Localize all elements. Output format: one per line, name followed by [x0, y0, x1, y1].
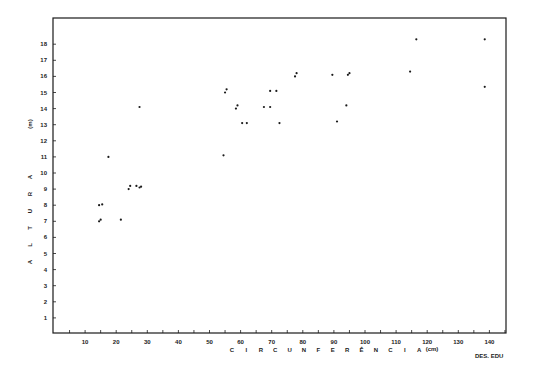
x-tick-label: 50 — [206, 339, 213, 345]
y-tick-label: 2 — [44, 299, 48, 305]
y-tick-label: 10 — [40, 170, 47, 176]
data-point — [129, 185, 131, 187]
data-point — [120, 219, 122, 221]
data-point — [236, 104, 238, 106]
data-point — [241, 122, 243, 124]
data-point — [101, 203, 103, 205]
plot-border — [53, 18, 506, 333]
y-tick-label: 17 — [40, 57, 47, 63]
data-point — [100, 219, 102, 221]
drawing-credit: DES. EDU — [475, 353, 503, 359]
data-point — [135, 185, 137, 187]
scatter-chart: 123456789101112131415161718 102030405060… — [0, 0, 533, 374]
x-tick-label: 60 — [237, 339, 244, 345]
data-point — [415, 38, 417, 40]
x-tick-label: 30 — [144, 339, 151, 345]
y-title-letter: T — [27, 226, 33, 230]
x-tick-label: 40 — [175, 339, 182, 345]
data-point — [224, 91, 226, 93]
x-title-letter: N — [374, 347, 378, 353]
y-title-letter: R — [27, 191, 33, 196]
x-title-unit: (cm) — [426, 346, 439, 352]
data-point — [128, 188, 130, 190]
data-point — [269, 106, 271, 108]
data-point — [235, 108, 237, 110]
y-title-letter: A — [27, 259, 33, 264]
x-tick-label: 140 — [484, 339, 495, 345]
data-point — [295, 72, 297, 74]
x-title-letter: I — [404, 347, 406, 353]
x-tick-label: 120 — [422, 339, 433, 345]
x-title-letter: N — [302, 347, 306, 353]
y-title-letter: L — [27, 243, 33, 247]
y-tick-label: 5 — [44, 251, 48, 257]
y-title-unit: (m) — [27, 119, 33, 128]
data-points — [98, 38, 486, 222]
x-title-letter: F — [317, 347, 321, 353]
y-tick-label: 7 — [44, 218, 48, 224]
x-title-letter: C — [273, 347, 278, 353]
x-tick-label: 80 — [299, 339, 306, 345]
data-point — [246, 122, 248, 124]
x-title-letter: Ê — [360, 346, 364, 353]
y-tick-label: 15 — [40, 90, 47, 96]
x-title-letter: R — [345, 347, 350, 353]
y-axis-title: ALTURA(m) — [27, 119, 33, 264]
y-tick-label: 9 — [44, 186, 48, 192]
y-tick-label: 12 — [40, 138, 47, 144]
plot-frame — [53, 18, 506, 333]
y-tick-label: 16 — [40, 73, 47, 79]
y-tick-label: 6 — [44, 234, 48, 240]
data-point — [263, 106, 265, 108]
y-title-letter: U — [27, 209, 33, 213]
x-title-letter: E — [331, 347, 335, 353]
y-axis: 123456789101112131415161718 — [40, 41, 56, 321]
x-axis: 102030405060708090100110120130140 — [70, 330, 505, 345]
y-tick-label: 3 — [44, 283, 48, 289]
data-point — [226, 88, 228, 90]
x-tick-label: 90 — [331, 339, 338, 345]
y-title-letter: A — [27, 174, 33, 179]
data-point — [409, 70, 411, 72]
data-point — [345, 104, 347, 106]
data-point — [484, 38, 486, 40]
data-point — [278, 122, 280, 124]
data-point — [331, 74, 333, 76]
data-point — [107, 156, 109, 158]
x-tick-label: 10 — [82, 339, 89, 345]
data-point — [222, 154, 224, 156]
y-tick-label: 18 — [40, 41, 47, 47]
x-axis-title: CIRCUNFERÊNCIA(cm) — [230, 346, 439, 353]
x-tick-label: 110 — [391, 339, 401, 345]
data-point — [269, 90, 271, 92]
y-tick-label: 8 — [44, 202, 48, 208]
x-tick-label: 130 — [453, 339, 464, 345]
x-title-letter: I — [246, 347, 248, 353]
y-tick-label: 1 — [44, 315, 48, 321]
x-title-letter: R — [259, 347, 264, 353]
y-tick-label: 13 — [40, 122, 47, 128]
data-point — [336, 120, 338, 122]
y-tick-label: 11 — [41, 154, 48, 160]
data-point — [347, 74, 349, 76]
data-point — [98, 204, 100, 206]
data-point — [294, 75, 296, 77]
data-point — [484, 86, 486, 88]
x-tick-label: 100 — [360, 339, 371, 345]
data-point — [98, 220, 100, 222]
x-title-letter: U — [287, 347, 291, 353]
data-point — [138, 106, 140, 108]
data-point — [275, 90, 277, 92]
data-point — [348, 72, 350, 74]
x-title-letter: C — [230, 347, 235, 353]
x-tick-label: 70 — [268, 339, 275, 345]
x-title-letter: A — [417, 347, 422, 353]
x-title-letter: C — [388, 347, 393, 353]
data-point — [140, 186, 142, 188]
y-tick-label: 4 — [44, 267, 48, 273]
y-tick-label: 14 — [40, 106, 47, 112]
x-tick-label: 20 — [113, 339, 120, 345]
